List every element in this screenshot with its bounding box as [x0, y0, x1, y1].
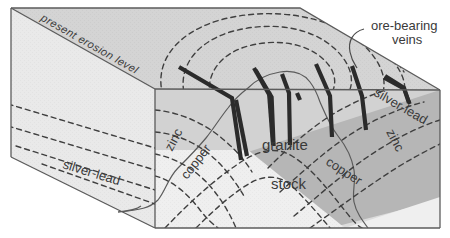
label-ore-bearing-veins-line2: veins — [392, 32, 423, 47]
block-diagram-figure: present erosion level ore-bearing veins … — [0, 0, 450, 238]
vein-6 — [297, 93, 300, 100]
label-granite: granite — [262, 136, 308, 153]
label-ore-bearing-veins-line1: ore-bearing — [371, 18, 438, 33]
label-stock: stock — [271, 175, 307, 192]
